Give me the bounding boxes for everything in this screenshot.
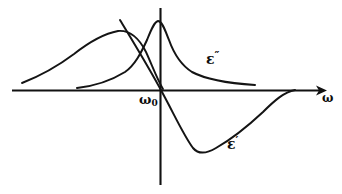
- omega-symbol: ω: [139, 92, 151, 107]
- curve-broad-band: [22, 31, 163, 89]
- epsilon-symbol-real: ε: [227, 136, 236, 152]
- axis-omega-symbol: ω: [322, 91, 333, 105]
- omega-subscript: 0: [151, 98, 157, 108]
- frequency-axis-label: ω: [322, 92, 333, 104]
- figure-canvas: [0, 0, 342, 194]
- dielectric-dispersion-figure: ω0 ω ε″ ε′: [0, 0, 342, 194]
- double-prime-mark: ″: [215, 49, 220, 62]
- epsilon-symbol-imaginary: ε: [206, 51, 215, 67]
- curve-epsilon-double-prime: [77, 21, 255, 88]
- single-prime-mark: ′: [236, 134, 239, 147]
- resonance-frequency-label: ω0: [139, 93, 158, 108]
- epsilon-real-label: ε′: [227, 135, 239, 151]
- epsilon-imaginary-label: ε″: [206, 50, 220, 66]
